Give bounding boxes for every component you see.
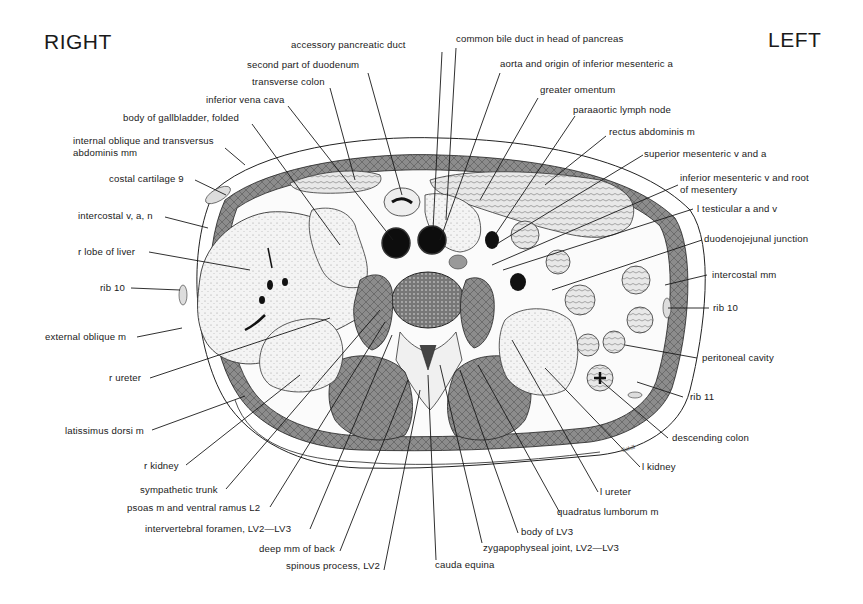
label-cauda-equina: cauda equina (435, 559, 494, 571)
label-latissimus-dorsi: latissimus dorsi m (65, 425, 144, 437)
label-peritoneal-cavity: peritoneal cavity (702, 352, 774, 364)
label-common-bile-duct: common bile duct in head of pancreas (456, 33, 624, 45)
orientation-right: RIGHT (44, 30, 112, 54)
label-internal-oblique-line1: internal oblique and transversus (73, 135, 214, 147)
label-r-kidney: r kidney (144, 460, 179, 472)
label-greater-omentum: greater omentum (540, 84, 615, 96)
label-accessory-pancreatic-duct: accessory pancreatic duct (291, 39, 406, 51)
label-intervertebral-foramen: intervertebral foramen, LV2—LV3 (145, 523, 291, 535)
label-superior-mesenteric: superior mesenteric v and a (644, 148, 766, 160)
label-rib-10-right: rib 10 (100, 282, 125, 294)
rib-11 (628, 392, 642, 398)
duodenum (384, 188, 420, 216)
aorta (418, 226, 446, 254)
label-spinous-process: spinous process, LV2 (286, 560, 380, 572)
label-transverse-colon: transverse colon (252, 76, 325, 88)
label-body-gallbladder: body of gallbladder, folded (123, 112, 239, 124)
label-l-testicular: l testicular a and v (697, 203, 777, 215)
label-l-kidney: l kidney (642, 461, 676, 473)
label-sympathetic-trunk: sympathetic trunk (140, 484, 218, 496)
label-inferior-mesenteric-line1: inferior mesenteric v and root (680, 172, 809, 184)
deep-back-muscle-right (329, 356, 413, 440)
label-quadratus-lumborum: quadratus lumborum m (557, 506, 659, 518)
label-psoas: psoas m and ventral ramus L2 (127, 502, 260, 514)
label-deep-mm-back: deep mm of back (259, 543, 335, 555)
left-kidney (499, 309, 578, 395)
label-rib-11: rib 11 (690, 391, 714, 403)
label-costal-cartilage-9: costal cartilage 9 (109, 173, 184, 185)
label-zygapophyseal-joint: zygapophyseal joint, LV2—LV3 (483, 542, 619, 554)
rib-10-right (179, 285, 187, 305)
label-inferior-vena-cava: inferior vena cava (206, 94, 284, 106)
vertebral-body (392, 272, 464, 328)
label-r-ureter: r ureter (109, 372, 141, 384)
label-inferior-mesenteric-line2: of mesentery (680, 184, 809, 196)
label-descending-colon: descending colon (672, 432, 749, 444)
label-l-ureter: l ureter (600, 486, 631, 498)
label-duodenojejunal-junction: duodenojejunal junction (704, 233, 808, 245)
label-internal-oblique-line2: abdominis mm (73, 147, 214, 159)
label-second-part-duodenum: second part of duodenum (247, 59, 359, 71)
label-aorta: aorta and origin of inferior mesenteric … (500, 58, 673, 70)
label-internal-oblique: internal oblique and transversus abdomin… (73, 135, 214, 159)
label-r-lobe-liver: r lobe of liver (78, 246, 135, 258)
label-rib-10-left: rib 10 (713, 302, 738, 314)
label-intercostal-van: intercostal v, a, n (78, 210, 153, 222)
label-intercostal-mm: intercostal mm (712, 269, 776, 281)
inferior-vena-cava (382, 228, 410, 258)
label-body-lv3: body of LV3 (521, 526, 573, 538)
orientation-left: LEFT (768, 28, 821, 52)
label-paraaortic-lymph-node: paraaortic lymph node (573, 104, 671, 116)
label-external-oblique: external oblique m (45, 331, 126, 343)
label-inferior-mesenteric: inferior mesenteric v and root of mesent… (680, 172, 809, 196)
label-rectus-abdominis: rectus abdominis m (609, 126, 695, 138)
